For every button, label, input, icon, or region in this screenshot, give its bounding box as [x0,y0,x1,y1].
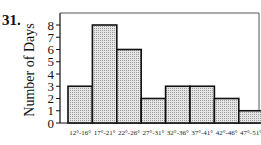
bar [239,111,261,123]
x-tick-label: 12°-16° [69,129,91,137]
bar [190,86,214,123]
x-tick-label: 42°-46° [216,129,238,137]
x-tick-label: 27°-31° [142,129,164,137]
bar [68,86,92,123]
bar [117,50,141,124]
x-tick-label: 32°-36° [167,129,189,137]
bars [68,25,261,123]
x-axis-tick-labels: 12°-16°17°-21°22°-26°27°-31°32°-36°37°-4… [69,129,261,137]
x-tick-label: 47°-51° [240,129,261,137]
x-tick-label: 37°-41° [191,129,213,137]
x-tick-label: 17°-21° [94,129,116,137]
y-tick-label: 8 [48,18,55,33]
bar [141,99,165,124]
histogram-chart: 012345678 12°-16°17°-21°22°-26°27°-31°32… [0,0,261,145]
bar [166,86,190,123]
bar [92,25,116,123]
bar [214,99,238,124]
x-tick-label: 22°-26° [118,129,140,137]
y-axis-ticks: 012345678 [48,18,61,131]
